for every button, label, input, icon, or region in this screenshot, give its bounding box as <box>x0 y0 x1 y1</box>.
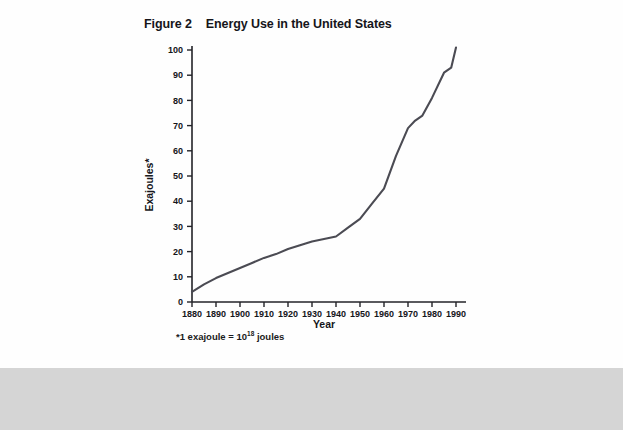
page-root: Figure 2Energy Use in the United States … <box>0 0 623 430</box>
chart-plot-area: 0102030405060708090100 18801890190019101… <box>0 0 623 360</box>
y-axis-tick-labels: 0102030405060708090100 <box>168 45 183 307</box>
footnote-suffix: joules <box>254 331 284 342</box>
figure-footnote: *1 exajoule = 1018 joules <box>176 331 284 342</box>
y-axis-tick-label: 50 <box>173 171 183 181</box>
footnote-prefix: *1 exajoule = 10 <box>176 331 247 342</box>
y-axis-tick-label: 0 <box>178 297 183 307</box>
materials-section: Materials For each student 1 sheet of gr… <box>0 368 623 430</box>
y-axis-tick-label: 10 <box>173 272 183 282</box>
y-axis-tick-label: 70 <box>173 121 183 131</box>
y-axis-tick-label: 60 <box>173 146 183 156</box>
y-axis-tick-label: 100 <box>168 45 183 55</box>
y-axis-tick-label: 90 <box>173 70 183 80</box>
energy-use-line-chart: Exajoules* 0102030405060708090100 188018… <box>0 0 623 360</box>
y-axis-tick-label: 20 <box>173 247 183 257</box>
y-axis-tick-label: 30 <box>173 222 183 232</box>
y-axis-tick-label: 40 <box>173 196 183 206</box>
data-series-line <box>192 47 456 291</box>
x-axis-title: Year <box>192 318 456 330</box>
y-axis-tick-label: 80 <box>173 96 183 106</box>
